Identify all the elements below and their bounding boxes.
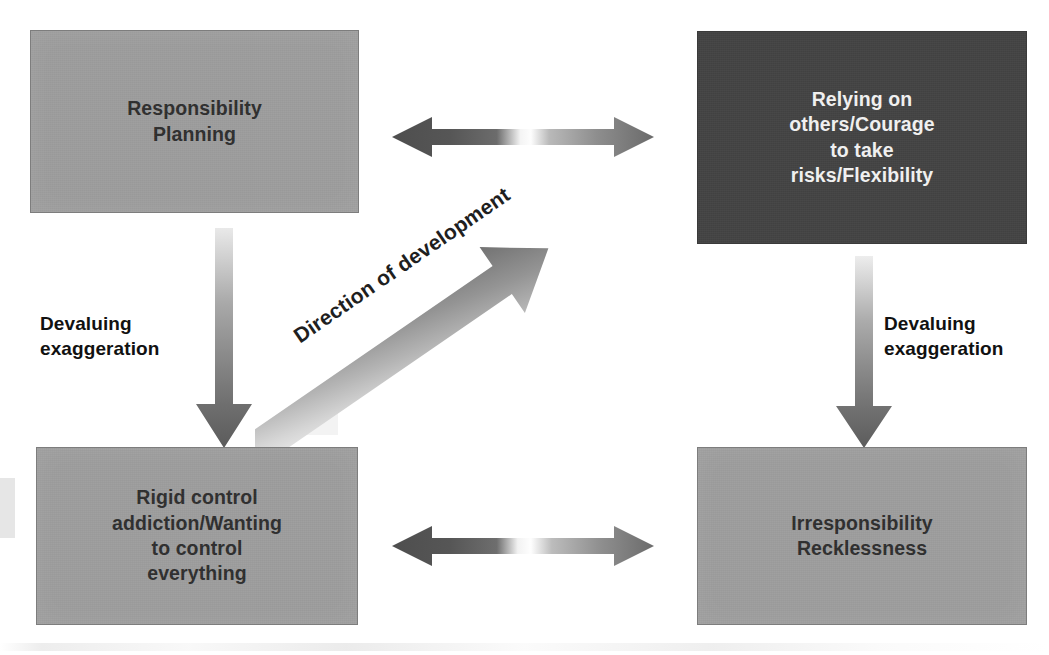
box-rigid-control-addiction[interactable]: Rigid control addiction/Wanting to contr… [36, 447, 358, 625]
scan-artifact-left-edge [0, 478, 15, 538]
box-top-right-label: Relying on others/Courage to take risks/… [789, 87, 935, 188]
caption-devaluing-exaggeration-left: Devaluing exaggeration [40, 312, 159, 361]
caption-devaluing-exaggeration-right: Devaluing exaggeration [884, 312, 1003, 361]
box-top-left-label: Responsibility Planning [127, 96, 262, 147]
left-downward-arrow [196, 228, 252, 448]
box-relying-on-others[interactable]: Relying on others/Courage to take risks/… [697, 31, 1027, 244]
box-irresponsibility-recklessness[interactable]: Irresponsibility Recklessness [697, 447, 1027, 625]
box-bottom-left-label: Rigid control addiction/Wanting to contr… [112, 485, 282, 586]
bottom-horizontal-double-arrow [392, 522, 654, 570]
scan-artifact-bottom-strip [0, 643, 1049, 651]
top-horizontal-double-arrow [392, 113, 654, 161]
diagram-canvas: Direction of development Responsibility … [0, 0, 1049, 655]
box-responsibility-planning[interactable]: Responsibility Planning [30, 30, 359, 213]
box-bottom-right-label: Irresponsibility Recklessness [791, 511, 932, 562]
